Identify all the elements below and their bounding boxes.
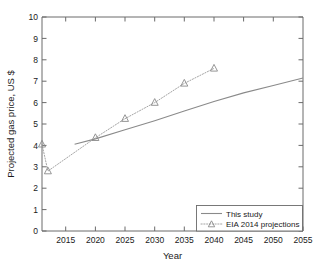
data-point-marker [181,79,188,86]
plot-border [42,17,303,231]
y-tick-label: 9 [33,34,38,44]
series-markers-eia-projections [39,64,218,173]
gas-price-line-chart: 10 9 8 7 6 5 4 3 2 1 0 2015 2020 2025 20… [0,0,325,278]
x-tick-label: 2040 [205,235,224,245]
x-tick-label: 2035 [175,235,194,245]
x-tick-label: 2030 [145,235,164,245]
y-tick-label: 5 [33,119,38,129]
chart-legend[interactable]: This study EIA 2014 projections [197,206,303,232]
x-axis-title: Year [163,250,182,261]
y-tick-labels: 10 9 8 7 6 5 4 3 2 1 0 [29,12,39,236]
y-axis-title: Projected gas price, US $ [5,69,16,177]
y-tick-label: 4 [33,141,38,151]
x-tick-label: 2045 [234,235,253,245]
legend-label: EIA 2014 projections [226,220,299,229]
x-tick-label: 2050 [264,235,283,245]
x-tick-labels: 2015 2020 2025 2030 2035 2040 2045 2050 … [56,235,312,245]
x-tick-label: 2020 [86,235,105,245]
y-tick-label: 0 [33,226,38,236]
y-axis-ticks [42,17,303,231]
y-tick-label: 3 [33,162,38,172]
y-tick-label: 7 [33,76,38,86]
series-line-this-study [75,78,303,144]
x-axis-ticks [66,17,303,231]
x-tick-label: 2055 [294,235,313,245]
y-tick-label: 10 [29,12,39,22]
y-tick-label: 8 [33,55,38,65]
y-tick-label: 1 [33,205,38,215]
y-tick-label: 6 [33,98,38,108]
chart-figure: 10 9 8 7 6 5 4 3 2 1 0 2015 2020 2025 20… [0,0,325,278]
axes-frame [42,17,303,231]
x-tick-label: 2025 [116,235,135,245]
data-point-marker [211,64,218,71]
y-tick-label: 2 [33,183,38,193]
legend-label: This study [226,210,262,219]
x-tick-label: 2015 [56,235,75,245]
